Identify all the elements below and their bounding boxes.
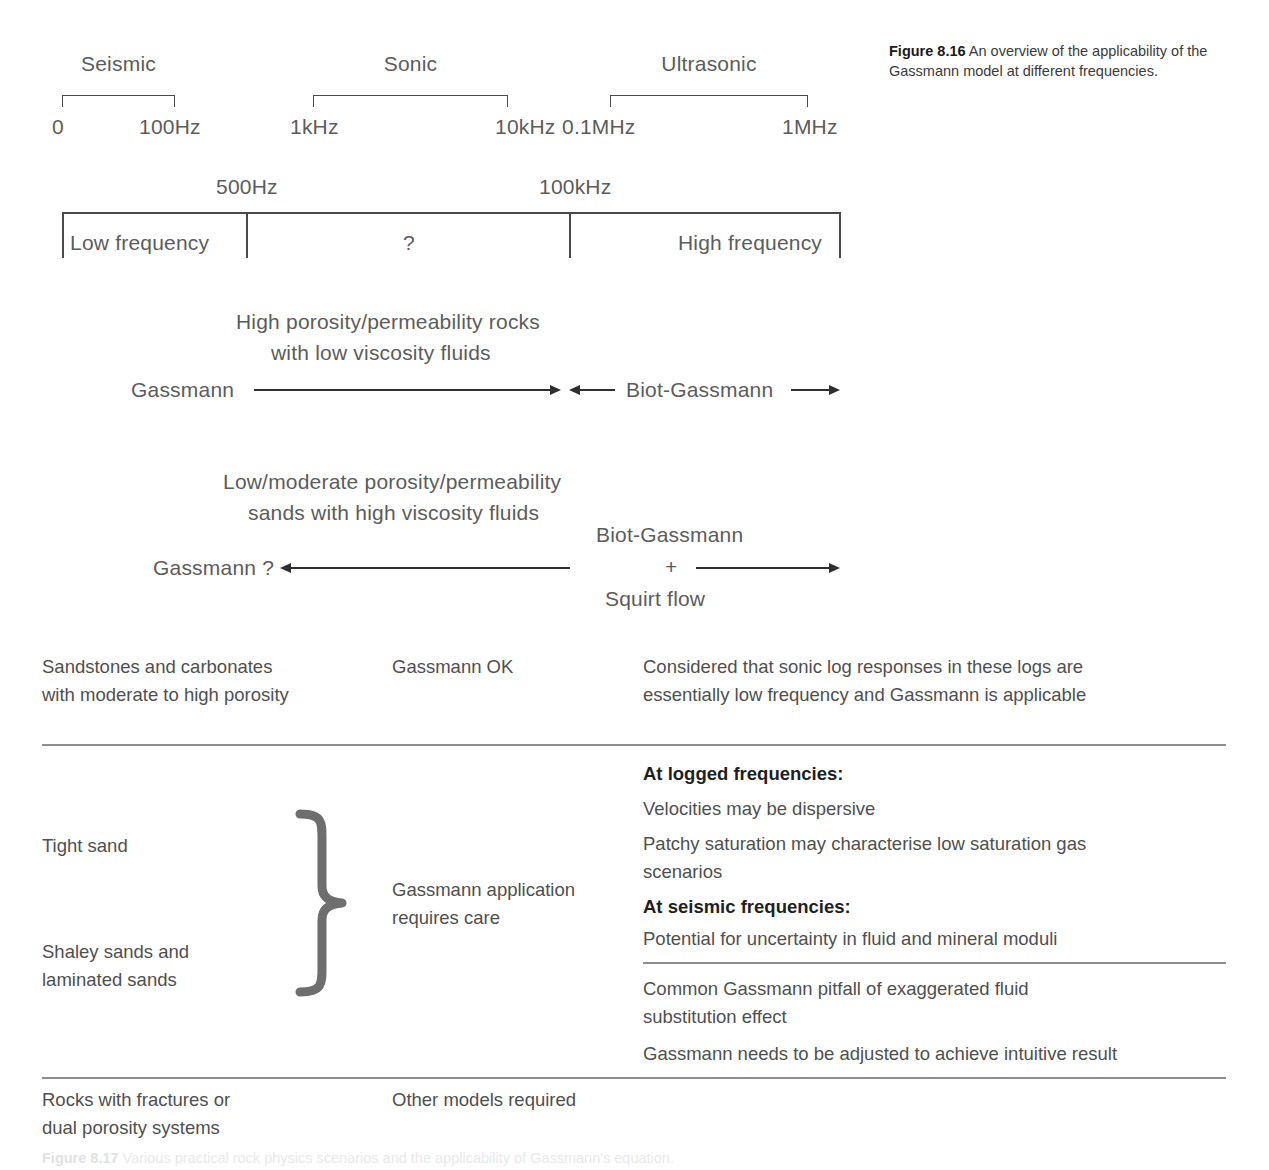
scale-tick-label-100khz: 100kHz — [539, 175, 611, 199]
table-row-2-verdict-line1: Gassmann application — [392, 876, 575, 904]
table-row-2-note-upper-line1: At logged frequencies: — [643, 760, 843, 788]
figure-caption-number: Figure 8.16 — [889, 43, 966, 59]
model-row-2-left-arrow-head — [280, 563, 291, 573]
scale-tick-left-end — [62, 212, 64, 258]
model-row-2-left-label: Gassmann ? — [153, 556, 274, 580]
bottom-figure-caption-text: Various practical rock physics scenarios… — [123, 1150, 674, 1166]
model-row-1-condition-line1: High porosity/permeability rocks — [236, 310, 540, 334]
scale-region-high: High frequency — [678, 231, 822, 255]
table-row-3-scenario-line1: Rocks with fractures or — [42, 1086, 230, 1114]
model-row-2-right-arrow-head — [829, 563, 840, 573]
model-row-1-right-arrow-line — [254, 389, 550, 391]
model-row-2-left-arrow-line — [291, 567, 570, 569]
model-row-1-left-label: Gassmann — [131, 378, 234, 402]
table-row-2-note-upper-line4: scenarios — [643, 858, 722, 886]
bracket-sonic — [313, 95, 508, 107]
model-row-1-trailing-arrow-line — [791, 389, 829, 391]
model-row-2-right-label-line2: + — [665, 555, 677, 579]
table-row-1-scenario-line2: with moderate to high porosity — [42, 681, 382, 709]
band-label-seismic: Seismic — [62, 52, 175, 76]
table-row-3-scenario-line2: dual porosity systems — [42, 1114, 220, 1142]
table-row-1-note-line1: Considered that sonic log responses in t… — [643, 653, 1083, 681]
table-row-2-note-upper-line5: At seismic frequencies: — [643, 893, 851, 921]
figure-page: Figure 8.16 An overview of the applicabi… — [0, 0, 1269, 1170]
table-row-3-verdict: Other models required — [392, 1086, 576, 1114]
table-row-1-verdict: Gassmann OK — [392, 653, 513, 681]
scale-region-unknown: ? — [403, 231, 415, 255]
bottom-figure-caption: Figure 8.17 Various practical rock physi… — [42, 1150, 674, 1166]
model-row-2-condition-line1: Low/moderate porosity/permeability — [223, 470, 561, 494]
model-row-1-left-arrow-head — [569, 385, 580, 395]
table-row-2-scenario-bottom-line1: Shaley sands and — [42, 938, 189, 966]
model-row-2-right-arrow-line — [696, 567, 829, 569]
model-row-1-right-label: Biot-Gassmann — [626, 378, 773, 402]
figure-caption: Figure 8.16 An overview of the applicabi… — [889, 42, 1234, 81]
model-row-1-left-arrow-line — [580, 389, 615, 391]
scale-region-low: Low frequency — [70, 231, 209, 255]
curly-brace-icon — [292, 808, 352, 1002]
model-row-1-condition-line2: with low viscosity fluids — [271, 341, 491, 365]
model-row-2-condition-line2: sands with high viscosity fluids — [248, 501, 539, 525]
table-row-2-scenario-top: Tight sand — [42, 832, 128, 860]
tick-label-seismic-start: 0 — [52, 115, 64, 139]
band-label-sonic: Sonic — [313, 52, 508, 76]
scale-tick-label-500hz: 500Hz — [216, 175, 278, 199]
model-row-1-right-arrow-head — [550, 385, 561, 395]
table-row-2-note-upper-line2: Velocities may be dispersive — [643, 795, 875, 823]
table-row-2-note-lower-line3: Gassmann needs to be adjusted to achieve… — [643, 1040, 1117, 1068]
frequency-scale-line — [62, 212, 841, 214]
table-row-2-note-lower-line1: Common Gassmann pitfall of exaggerated f… — [643, 975, 1029, 1003]
tick-label-seismic-end: 100Hz — [139, 115, 201, 139]
tick-label-ultrasonic-start: 0.1MHz — [562, 115, 636, 139]
table-rule-1 — [42, 744, 1226, 746]
table-row-1-note-line2: essentially low frequency and Gassmann i… — [643, 681, 1086, 709]
table-row-2-note-upper-line6: Potential for uncertainty in fluid and m… — [643, 925, 1057, 953]
table-rule-2 — [42, 1077, 1226, 1079]
tick-label-sonic-start: 1kHz — [290, 115, 339, 139]
model-row-1-trailing-arrow-head — [829, 385, 840, 395]
model-row-2-right-label-line1: Biot-Gassmann — [596, 523, 743, 547]
table-row-2-note-lower-line2: substitution effect — [643, 1003, 787, 1031]
band-label-ultrasonic: Ultrasonic — [610, 52, 808, 76]
table-row-1-scenario-line1: Sandstones and carbonates — [42, 653, 382, 681]
tick-label-ultrasonic-end: 1MHz — [782, 115, 838, 139]
table-rule-inner — [643, 962, 1226, 964]
table-row-2-note-upper-line3: Patchy saturation may characterise low s… — [643, 830, 1086, 858]
scale-tick-500hz — [246, 212, 248, 258]
table-row-2-verdict-line2: requires care — [392, 904, 500, 932]
bracket-ultrasonic — [610, 95, 808, 107]
tick-label-sonic-end: 10kHz — [495, 115, 556, 139]
scale-tick-right-end — [839, 212, 841, 258]
bracket-seismic — [62, 95, 175, 107]
table-row-2-scenario-bottom-line2: laminated sands — [42, 966, 177, 994]
model-row-2-right-label-line3: Squirt flow — [605, 587, 705, 611]
bottom-figure-caption-number: Figure 8.17 — [42, 1150, 119, 1166]
scale-tick-100khz — [569, 212, 571, 258]
